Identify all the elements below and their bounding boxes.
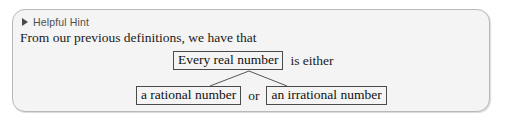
helpful-hint-panel: Helpful Hint From our previous definitio… [12,9,490,112]
intro-text: From our previous definitions, we have t… [20,30,257,46]
node-a-rational-number[interactable]: a rational number [136,86,241,105]
node-an-irrational-number[interactable]: an irrational number [266,86,386,105]
connector-label-or: or [248,88,259,104]
root-trailing-text: is either [290,53,333,69]
hint-header: Helpful Hint [21,15,89,29]
triangle-right-icon[interactable] [22,18,28,26]
node-every-real-number[interactable]: Every real number [173,51,283,70]
diagram-row-children: a rational number or an irrational numbe… [136,86,387,105]
diagram-row-root: Every real number is either [173,51,334,70]
hint-title: Helpful Hint [33,16,89,28]
